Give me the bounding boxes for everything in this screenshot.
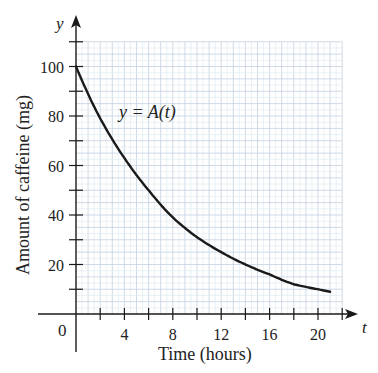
y-tick-label: 60 (48, 158, 64, 175)
x-tick-label: 8 (169, 326, 177, 343)
x-tick-label: 12 (213, 326, 229, 343)
x-tick-label: 20 (310, 326, 326, 343)
tick-labels: 4812162020406080100 (40, 59, 326, 344)
y-axis-symbol: y (54, 14, 64, 33)
x-tick-label: 4 (120, 326, 128, 343)
curve-label: y = A(t) (117, 102, 176, 123)
x-tick-label: 16 (262, 326, 278, 343)
y-tick-label: 100 (40, 59, 64, 76)
origin-label: 0 (58, 321, 67, 340)
y-tick-label: 80 (48, 108, 64, 125)
x-axis-label: Time (hours) (158, 344, 252, 365)
caffeine-chart: y t 0 y = A(t) Time (hours) Amount of ca… (0, 0, 378, 373)
y-tick-label: 40 (48, 207, 64, 224)
x-axis-symbol: t (362, 318, 368, 337)
y-axis-label: Amount of caffeine (mg) (13, 95, 34, 275)
grid (76, 42, 342, 314)
y-tick-label: 20 (48, 257, 64, 274)
